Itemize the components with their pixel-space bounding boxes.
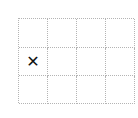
cell-r1-c3[interactable] xyxy=(77,19,106,48)
cell-r2-c2[interactable] xyxy=(48,48,77,76)
cell-r1-c4[interactable] xyxy=(106,19,135,48)
cell-r3-c1[interactable] xyxy=(19,76,48,104)
cell-r1-c1[interactable] xyxy=(19,19,48,48)
x-mark-icon: ✕ xyxy=(26,54,39,70)
cell-r2-c1[interactable]: ✕ xyxy=(19,48,48,76)
game-board: ✕ xyxy=(18,18,134,103)
cell-r2-c3[interactable] xyxy=(77,48,106,76)
cell-r1-c2[interactable] xyxy=(48,19,77,48)
cell-r3-c4[interactable] xyxy=(106,76,135,104)
cell-r3-c3[interactable] xyxy=(77,76,106,104)
cell-r2-c4[interactable] xyxy=(106,48,135,76)
cell-r3-c2[interactable] xyxy=(48,76,77,104)
